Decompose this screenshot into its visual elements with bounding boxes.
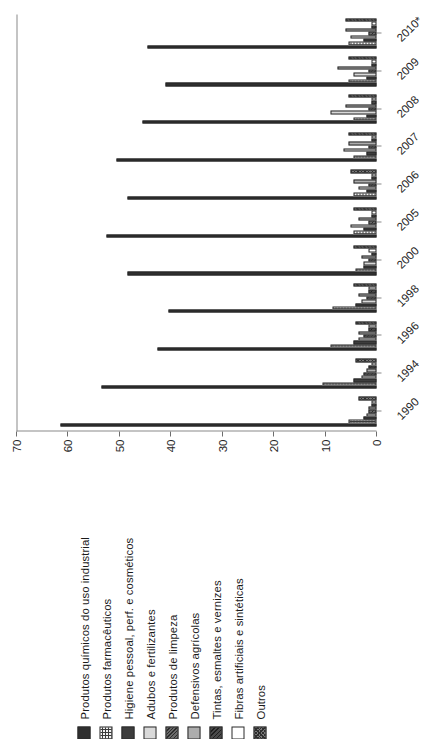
bar xyxy=(127,196,376,199)
chart-legend: Produtos químicos do uso industrialProdu… xyxy=(76,499,344,739)
legend-item: Produtos farmacêuticos xyxy=(98,499,113,739)
legend-item: Defensivos agrícolas xyxy=(186,499,201,739)
legend-item: Produtos de limpeza xyxy=(164,499,179,739)
legend-item-label: Fibras artificiais e sintéticas xyxy=(232,578,244,719)
bar xyxy=(165,82,376,85)
category-axis-tick-mark xyxy=(376,145,381,146)
bar-group: 1990 xyxy=(16,392,376,430)
legend-item: Tintas, esmaltes e vernizes xyxy=(208,499,223,739)
rotated-figure-wrapper: Produtos químicos do uso industrialProdu… xyxy=(0,0,421,739)
category-axis-tick-mark xyxy=(376,259,381,260)
legend-item-label: Produtos de limpeza xyxy=(166,614,178,719)
value-axis-tick-label: 20 xyxy=(267,439,279,452)
bar xyxy=(147,45,376,48)
bar-group: 2006 xyxy=(16,165,376,203)
value-axis-tick-mark xyxy=(16,431,17,436)
category-axis-tick-mark xyxy=(376,108,381,109)
bar xyxy=(142,120,376,123)
value-axis-tick-mark xyxy=(273,431,274,436)
value-axis-tick-mark xyxy=(67,431,68,436)
bar xyxy=(337,66,376,69)
bar xyxy=(353,245,376,248)
value-axis-tick-label: 50 xyxy=(113,439,125,452)
bar xyxy=(355,321,376,324)
category-axis-tick-mark xyxy=(376,334,381,335)
category-axis-tick-label: 2006 xyxy=(394,168,421,195)
legend-item: Outros xyxy=(252,499,267,739)
bar xyxy=(353,283,376,286)
bar-group: 1994 xyxy=(16,354,376,392)
legend-item: Adubos e fertilizantes xyxy=(142,499,157,739)
category-axis-tick-mark xyxy=(376,297,381,298)
swatch-grid-hatch-icon xyxy=(99,726,112,739)
bar xyxy=(60,423,376,426)
value-axis-tick-mark xyxy=(170,431,171,436)
category-axis-tick-label: 2005 xyxy=(394,206,421,233)
bar-group: 2005 xyxy=(16,203,376,241)
category-axis-tick-mark xyxy=(376,372,381,373)
legend-item-label: Tintas, esmaltes e vernizes xyxy=(210,580,222,719)
category-axis-tick-label: 2008 xyxy=(394,92,421,119)
swatch-dense-hatch-icon xyxy=(165,726,178,739)
legend-item-label: Outros xyxy=(254,684,266,719)
value-axis-tick-mark xyxy=(221,431,222,436)
bar xyxy=(345,18,376,21)
swatch-very-light-icon xyxy=(143,726,156,739)
category-axis-tick-label: 1990 xyxy=(394,395,421,422)
value-axis-tick-label: 30 xyxy=(216,439,228,452)
category-axis-tick-mark xyxy=(376,32,381,33)
category-axis-tick-label: 2010* xyxy=(394,14,421,44)
swatch-diag-hatch-icon xyxy=(209,726,222,739)
bar xyxy=(106,234,376,237)
legend-item: Produtos químicos do uso industrial xyxy=(76,499,91,739)
bar-group: 2009 xyxy=(16,52,376,90)
value-axis-tick-mark xyxy=(324,431,325,436)
legend-item-label: Produtos farmacêuticos xyxy=(100,598,112,719)
plot-area: 010203040506070 199019941996199820002005… xyxy=(16,14,406,477)
legend-item-label: Higiene pessoal, perf. e cosméticos xyxy=(122,537,134,719)
value-axis-tick-label: 70 xyxy=(10,439,22,452)
swatch-solid-dark-2-icon xyxy=(121,726,134,739)
legend-item-label: Defensivos agrícolas xyxy=(188,612,200,719)
bar-group: 2010* xyxy=(16,14,376,52)
swatch-solid-dark-icon xyxy=(77,726,90,739)
legend-item-label: Produtos químicos do uso industrial xyxy=(78,537,90,719)
bar xyxy=(127,271,376,274)
swatch-mid-grey-icon xyxy=(187,726,200,739)
bar xyxy=(358,396,376,399)
bar-group: 1998 xyxy=(16,279,376,317)
bar xyxy=(350,169,376,172)
value-axis-tick-label: 0 xyxy=(370,439,382,445)
category-axis-tick-label: 1998 xyxy=(394,282,421,309)
value-axis-tick-mark xyxy=(376,431,377,436)
category-axis-tick-mark xyxy=(376,183,381,184)
category-axis-tick-mark xyxy=(376,410,381,411)
bars-container: 1990199419961998200020052006200720082009… xyxy=(16,14,376,430)
bar xyxy=(348,94,376,97)
category-axis-tick-label: 1996 xyxy=(394,319,421,346)
category-axis-tick-label: 2007 xyxy=(394,130,421,157)
bar xyxy=(355,358,376,361)
value-axis: 010203040506070 xyxy=(16,431,376,477)
legend-item: Fibras artificiais e sintéticas xyxy=(230,499,245,739)
bar xyxy=(116,158,376,161)
bar-group: 1996 xyxy=(16,317,376,355)
value-axis-tick-label: 40 xyxy=(164,439,176,452)
category-axis-tick-label: 2000 xyxy=(394,244,421,271)
category-axis-tick-label: 2009 xyxy=(394,55,421,82)
swatch-white-icon xyxy=(231,726,244,739)
bar-group: 2008 xyxy=(16,90,376,128)
bar-group: 2000 xyxy=(16,241,376,279)
category-axis-tick-mark xyxy=(376,70,381,71)
swatch-cross-hatch-icon xyxy=(253,726,266,739)
bar-chart-figure: Produtos químicos do uso industrialProdu… xyxy=(0,0,421,739)
value-axis-tick-label: 10 xyxy=(319,439,331,452)
legend-item: Higiene pessoal, perf. e cosméticos xyxy=(120,499,135,739)
bar xyxy=(348,56,376,59)
legend-item-label: Adubos e fertilizantes xyxy=(144,609,156,719)
bar-group: 2007 xyxy=(16,128,376,166)
category-axis-tick-label: 1994 xyxy=(394,357,421,384)
value-axis-tick-label: 60 xyxy=(61,439,73,452)
bar xyxy=(353,207,376,210)
category-axis-tick-mark xyxy=(376,221,381,222)
